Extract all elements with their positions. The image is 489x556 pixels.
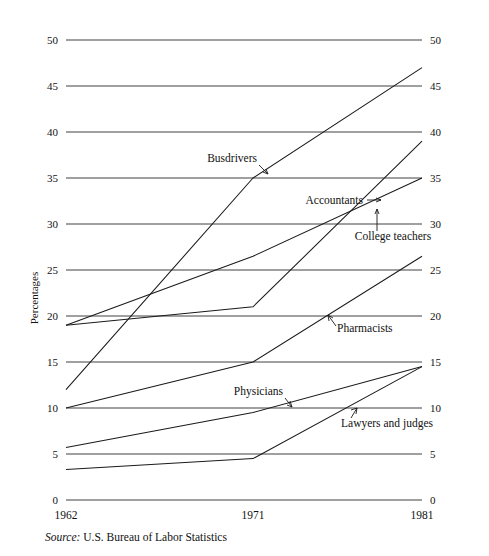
y-tick-left-40: 40 xyxy=(47,126,59,138)
x-tick-1981: 1981 xyxy=(411,509,434,521)
annotation-college-teachers: College teachers xyxy=(355,230,432,243)
annotation-pharmacists: Pharmacists xyxy=(337,322,393,334)
y-tick-right-30: 30 xyxy=(430,218,442,230)
y-tick-left-45: 45 xyxy=(47,80,59,92)
y-tick-left-10: 10 xyxy=(47,402,59,414)
y-axis-title: Percentages xyxy=(28,272,40,325)
gridlines xyxy=(66,40,422,500)
y-tick-right-15: 15 xyxy=(430,356,442,368)
chart-container: 50 45 40 35 30 25 20 15 10 5 0 50 45 40 … xyxy=(0,0,489,556)
y-tick-right-35: 35 xyxy=(430,172,442,184)
annotation-lawyers-and-judges: Lawyers and judges xyxy=(341,417,433,430)
y-axis-right-labels: 50 45 40 35 30 25 20 15 10 5 0 xyxy=(430,34,442,506)
x-tick-1971: 1971 xyxy=(242,509,265,521)
y-tick-right-40: 40 xyxy=(430,126,442,138)
source-caption: Source: U.S. Bureau of Labor Statistics xyxy=(45,531,227,543)
line-chart: 50 45 40 35 30 25 20 15 10 5 0 50 45 40 … xyxy=(0,0,489,556)
annotation-busdrivers: Busdrivers xyxy=(207,152,257,164)
y-tick-right-45: 45 xyxy=(430,80,442,92)
series-line-busdrivers xyxy=(66,68,422,390)
y-tick-left-5: 5 xyxy=(53,448,59,460)
data-series xyxy=(66,68,422,470)
y-tick-left-15: 15 xyxy=(47,356,59,368)
x-tick-1962: 1962 xyxy=(55,509,78,521)
y-tick-left-50: 50 xyxy=(47,34,59,46)
y-tick-left-20: 20 xyxy=(47,310,59,322)
y-tick-right-20: 20 xyxy=(430,310,442,322)
y-tick-right-5: 5 xyxy=(430,448,436,460)
y-tick-right-10: 10 xyxy=(430,402,442,414)
y-tick-left-0: 0 xyxy=(53,494,59,506)
x-axis-labels: 1962 1971 1981 xyxy=(55,509,434,521)
source-label: Source: xyxy=(45,531,80,543)
series-line-physicians xyxy=(66,367,422,448)
y-tick-left-30: 30 xyxy=(47,218,59,230)
annotation-physicians: Physicians xyxy=(234,385,284,398)
y-tick-right-50: 50 xyxy=(430,34,442,46)
y-tick-right-0: 0 xyxy=(430,494,436,506)
y-axis-left-labels: 50 45 40 35 30 25 20 15 10 5 0 xyxy=(47,34,59,506)
annotation-accountants: Accountants xyxy=(306,194,364,206)
series-annotations: Busdrivers Accountants College teachers … xyxy=(207,152,433,430)
source-text: U.S. Bureau of Labor Statistics xyxy=(83,531,227,543)
y-tick-left-25: 25 xyxy=(47,264,59,276)
y-tick-right-25: 25 xyxy=(430,264,442,276)
y-tick-left-35: 35 xyxy=(47,172,59,184)
